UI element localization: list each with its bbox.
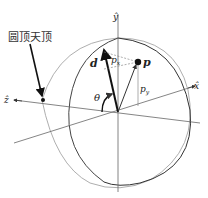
vector-d-label: d xyxy=(90,57,98,70)
callout-arrow xyxy=(30,44,42,96)
theta-arc xyxy=(102,94,112,112)
callout-label: 圆顶天顶 xyxy=(8,31,52,44)
px-component-line-2 xyxy=(104,62,138,69)
vector-p xyxy=(118,65,136,112)
py-label: py xyxy=(140,84,150,96)
z-axis-arrow xyxy=(14,100,22,101)
theta-label: θ xyxy=(94,92,100,103)
hemisphere-diagram: 圆顶天顶 ŷ x̂ ẑ d p px py θ xyxy=(0,0,208,198)
z-axis-label: ẑ xyxy=(3,95,9,105)
y-axis-label: ŷ xyxy=(112,12,119,22)
z-axis xyxy=(14,100,200,123)
px-component-line xyxy=(104,52,138,62)
point-p xyxy=(135,59,141,65)
point-p-label: p xyxy=(143,56,151,69)
zenith-point xyxy=(41,98,45,102)
x-axis-label: x̂ xyxy=(194,81,199,91)
